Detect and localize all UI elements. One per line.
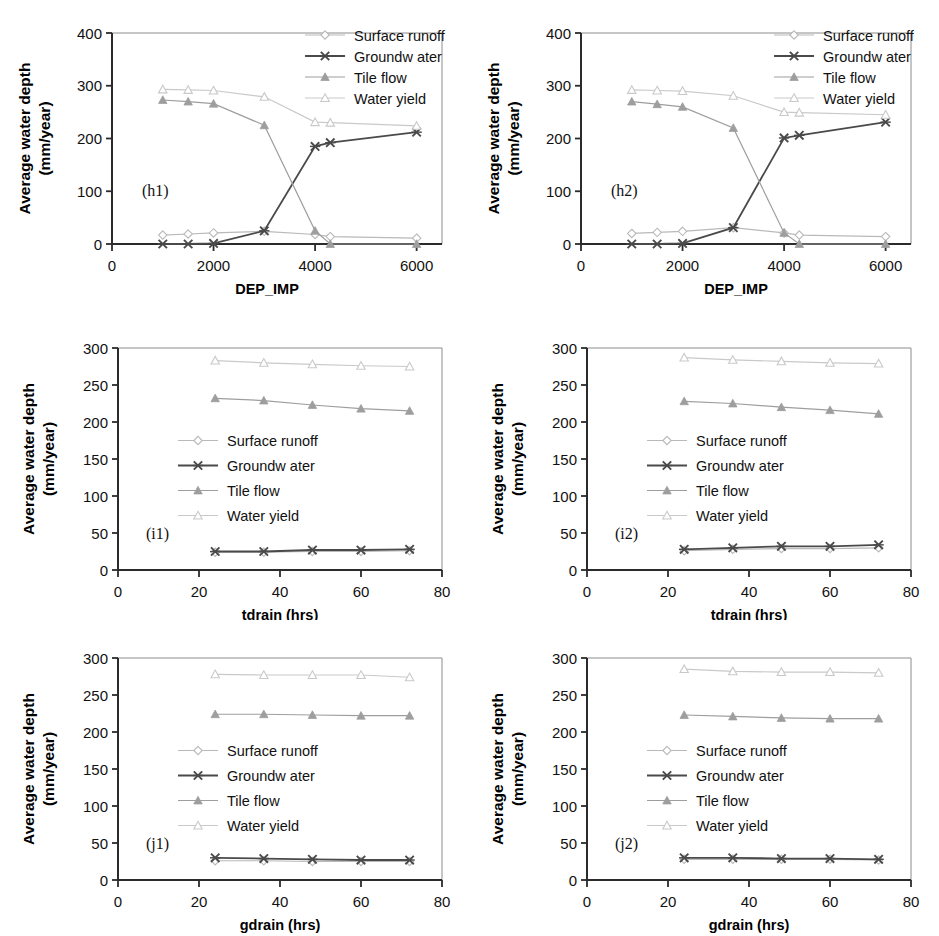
x-tick-label: 20 xyxy=(191,583,208,600)
x-tick-label: 80 xyxy=(903,893,920,910)
y-axis-title-line1: Average water depth xyxy=(485,63,502,215)
x-tick-label: 0 xyxy=(108,257,116,274)
x-tick-label: 60 xyxy=(822,583,839,600)
y-tick-label: 300 xyxy=(546,77,571,94)
marker-x-cross xyxy=(325,139,335,147)
series-water-yield xyxy=(211,670,414,681)
legend-label: Groundw ater xyxy=(696,768,784,784)
legend-label: Surface runoff xyxy=(354,28,446,44)
series-tile-flow xyxy=(211,710,414,719)
series-water-yield xyxy=(680,665,883,676)
x-tick-label: 80 xyxy=(903,583,920,600)
marker-open-diamond xyxy=(184,230,192,238)
marker-x-cross xyxy=(779,134,789,142)
x-tick-label: 6000 xyxy=(400,257,433,274)
marker-x-cross xyxy=(158,240,168,248)
marker-x-cross xyxy=(662,461,672,469)
x-axis-title: tdrain (hrs) xyxy=(242,607,319,620)
series-tile-flow xyxy=(680,397,883,417)
legend: Surface runoffGroundw aterTile flowWater… xyxy=(647,743,788,834)
x-tick-label: 6000 xyxy=(869,257,902,274)
marker-x-cross xyxy=(310,142,320,150)
marker-open-diamond xyxy=(663,746,671,754)
y-axis-title-line1: Average water depth xyxy=(20,383,37,535)
x-tick-label: 40 xyxy=(272,893,289,910)
x-tick-label: 0 xyxy=(577,257,585,274)
series-groundwater xyxy=(158,128,422,248)
y-tick-label: 100 xyxy=(83,488,108,505)
y-tick-label: 250 xyxy=(83,687,108,704)
y-axis-title-line1: Average water depth xyxy=(20,693,37,845)
chart-panel-i2: 050100150200250300020406080(i2)tdrain (h… xyxy=(469,320,939,620)
marker-open-diamond xyxy=(729,545,737,553)
legend-label: Tile flow xyxy=(227,483,280,499)
marker-open-diamond xyxy=(405,857,413,865)
x-tick-label: 20 xyxy=(660,583,677,600)
marker-x-cross xyxy=(794,131,804,139)
marker-open-diamond xyxy=(795,231,803,239)
marker-x-cross xyxy=(627,240,637,248)
y-tick-label: 0 xyxy=(100,872,108,889)
y-tick-label: 100 xyxy=(77,183,102,200)
y-tick-label: 200 xyxy=(77,130,102,147)
x-axis-title: DEP_IMP xyxy=(704,281,768,297)
panel-tag: (h1) xyxy=(142,182,169,200)
y-tick-label: 0 xyxy=(100,562,108,579)
figure-root: 01002003004000200040006000(h1)DEP_IMPAve… xyxy=(0,0,939,936)
legend-label: Surface runoff xyxy=(696,433,788,449)
y-tick-label: 200 xyxy=(83,724,108,741)
panel-tag: (j2) xyxy=(615,835,638,853)
marker-x-cross xyxy=(880,118,890,126)
x-tick-label: 80 xyxy=(434,583,451,600)
series-surface-runoff xyxy=(628,223,890,240)
legend: Surface runoffGroundw aterTile flowWater… xyxy=(774,28,915,107)
y-tick-label: 100 xyxy=(83,798,108,815)
marker-open-diamond xyxy=(308,547,316,555)
marker-x-cross xyxy=(193,771,203,779)
series-tile-flow xyxy=(680,711,883,722)
marker-open-diamond xyxy=(357,857,365,865)
legend-label: Tile flow xyxy=(354,70,407,86)
y-tick-label: 100 xyxy=(546,183,571,200)
x-tick-label: 2000 xyxy=(197,257,230,274)
legend-label: Water yield xyxy=(823,91,895,107)
y-tick-label: 0 xyxy=(94,236,102,253)
legend-label: Tile flow xyxy=(823,70,876,86)
legend-label: Water yield xyxy=(227,508,299,524)
y-tick-label: 50 xyxy=(91,835,108,852)
marker-open-diamond xyxy=(628,229,636,237)
y-axis-title-line2: (mm/year) xyxy=(509,732,526,806)
panel-tag: (i1) xyxy=(146,525,169,543)
marker-filled-triangle xyxy=(311,227,319,235)
y-axis-title-line1: Average water depth xyxy=(489,693,506,845)
x-tick-label: 2000 xyxy=(666,257,699,274)
x-tick-label: 4000 xyxy=(298,257,331,274)
legend-label: Water yield xyxy=(696,818,768,834)
legend-label: Groundw ater xyxy=(227,768,315,784)
y-tick-label: 50 xyxy=(91,525,108,542)
y-tick-label: 300 xyxy=(83,650,108,667)
series-line xyxy=(632,122,886,244)
x-tick-label: 40 xyxy=(272,583,289,600)
y-tick-label: 400 xyxy=(546,25,571,42)
y-axis-title-line2: (mm/year) xyxy=(40,732,57,806)
y-tick-label: 200 xyxy=(552,724,577,741)
legend-label: Water yield xyxy=(696,508,768,524)
marker-filled-triangle xyxy=(260,121,268,129)
y-tick-label: 250 xyxy=(552,687,577,704)
series-water-yield xyxy=(680,353,883,367)
x-tick-label: 0 xyxy=(583,893,591,910)
y-tick-label: 300 xyxy=(77,77,102,94)
chart-panel-j2: 050100150200250300020406080(j2)gdrain (h… xyxy=(469,630,939,936)
marker-filled-triangle xyxy=(729,124,737,132)
chart-panel-h2: 01002003004000200040006000(h2)DEP_IMPAve… xyxy=(469,0,939,300)
panel-tag: (i2) xyxy=(615,525,638,543)
y-tick-label: 0 xyxy=(569,562,577,579)
panel-tag: (h2) xyxy=(611,182,638,200)
y-axis-title-line2: (mm/year) xyxy=(36,101,53,175)
y-tick-label: 100 xyxy=(552,488,577,505)
chart-panel-h1: 01002003004000200040006000(h1)DEP_IMPAve… xyxy=(0,0,470,300)
legend-label: Groundw ater xyxy=(823,49,911,65)
y-tick-label: 150 xyxy=(552,761,577,778)
y-tick-label: 150 xyxy=(83,761,108,778)
